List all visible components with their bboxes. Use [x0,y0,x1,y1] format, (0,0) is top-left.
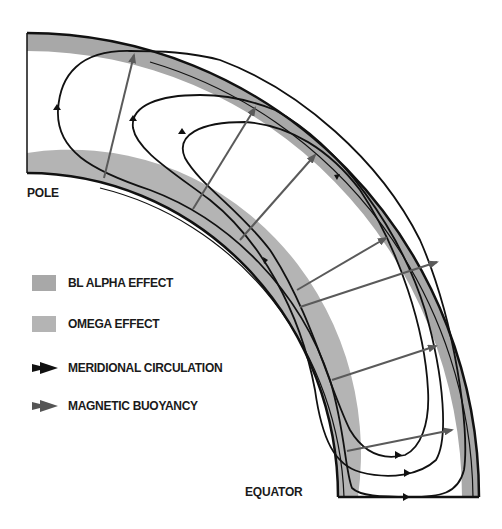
legend-item-omega-effect: OMEGA EFFECT [32,316,159,332]
gray-arrow-icon [30,398,60,414]
legend-label: BL ALPHA EFFECT [68,276,173,290]
equator-label: EQUATOR [245,485,303,499]
legend-item-alpha-effect: BL ALPHA EFFECT [32,275,173,291]
legend-label: MAGNETIC BUOYANCY [68,399,198,413]
black-arrow-icon [30,360,60,376]
pole-label: POLE [27,186,59,200]
alpha-effect-swatch [32,275,56,291]
solar-dynamo-diagram [0,0,502,529]
legend-item-magnetic-buoyancy: MAGNETIC BUOYANCY [30,398,198,414]
legend-label: MERIDIONAL CIRCULATION [68,361,222,375]
legend-label: OMEGA EFFECT [68,317,159,331]
legend-item-meridional-circulation: MERIDIONAL CIRCULATION [30,360,222,376]
omega-effect-swatch [32,316,56,332]
